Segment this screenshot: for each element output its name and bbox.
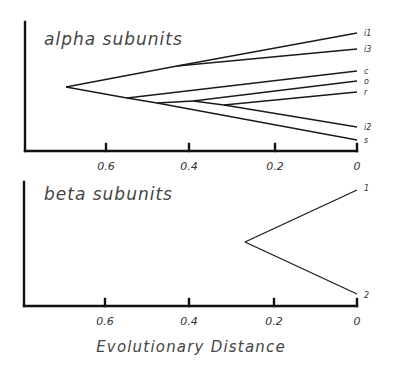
beta-panel: 0.6 0.4 0.2 0 beta subunits 1 2 [24,182,369,328]
alpha-tick-label: 0.2 [266,160,284,173]
beta-tick-label: 0.6 [96,315,114,328]
alpha-tree [66,33,357,140]
x-axis-label: Evolutionary Distance [96,338,286,356]
leaf-label-i3: i3 [364,45,371,54]
leaf-label-c: c [364,67,369,76]
leaf-label-i1: i1 [364,29,371,38]
figure: 0.6 0.4 0.2 0 alpha subunits [0,0,394,374]
leaf-label-2: 2 [364,291,369,300]
beta-tick-label: 0.4 [180,315,198,328]
leaf-label-r: r [364,88,368,97]
alpha-panel-title: alpha subunits [44,29,183,49]
beta-panel-title: beta subunits [44,184,173,204]
beta-tick-label: 0.2 [265,315,283,328]
alpha-tick-label: 0 [354,160,361,173]
alpha-panel: 0.6 0.4 0.2 0 alpha subunits [25,22,371,173]
leaf-label-s: s [364,136,368,145]
leaf-label-o: o [364,77,369,86]
leaf-label-i2: i2 [364,123,371,132]
alpha-tick-label: 0.6 [97,160,115,173]
leaf-label-1: 1 [364,184,369,193]
alpha-tick-label: 0.4 [180,160,198,173]
beta-tick-label: 0 [354,315,361,328]
beta-tree [245,190,357,294]
